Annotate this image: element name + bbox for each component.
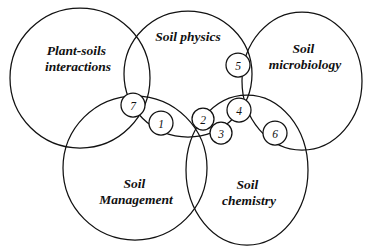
- region-marker-4[interactable]: 4: [227, 98, 251, 122]
- set-label-soil-microbiology: Soil microbiology: [269, 41, 343, 72]
- region-marker-7[interactable]: 7: [121, 93, 145, 117]
- set-label-line-1: Soil: [292, 41, 314, 56]
- set-circle-plant-soils-interactions[interactable]: [10, 8, 150, 148]
- region-marker-6[interactable]: 6: [263, 121, 287, 145]
- region-marker-5[interactable]: 5: [226, 53, 250, 77]
- region-marker-1[interactable]: 1: [149, 111, 173, 135]
- venn-diagram-container: Plant-soils interactions Soil physics So…: [0, 0, 372, 252]
- region-number-label: 1: [158, 118, 164, 130]
- region-marker-2[interactable]: 2: [192, 108, 214, 130]
- set-label-soil-management: Soil Management: [98, 176, 174, 207]
- region-number-label: 5: [235, 60, 241, 72]
- set-label-line-2: interactions: [45, 59, 111, 74]
- set-label-line-1: Plant-soils: [47, 43, 106, 58]
- venn-diagram-canvas: Plant-soils interactions Soil physics So…: [0, 0, 372, 252]
- region-markers: 1 2 3 4 5 6 7: [121, 53, 287, 145]
- set-label-soil-physics: Soil physics: [155, 29, 221, 44]
- set-label-line-2: Management: [98, 192, 174, 207]
- region-number-label: 6: [272, 128, 278, 140]
- set-label-line-2: chemistry: [222, 193, 277, 208]
- set-label-plant-soils-interactions: Plant-soils interactions: [45, 43, 111, 74]
- region-marker-3[interactable]: 3: [210, 122, 232, 144]
- set-label-line-1: Soil: [123, 176, 145, 191]
- set-circle-soil-microbiology[interactable]: [242, 12, 362, 150]
- set-label-line-1: Soil physics: [155, 29, 221, 44]
- set-label-line-2: microbiology: [269, 57, 343, 72]
- set-label-line-1: Soil: [236, 177, 258, 192]
- region-number-label: 3: [217, 128, 224, 140]
- region-number-label: 2: [200, 114, 206, 126]
- region-number-label: 4: [236, 105, 242, 117]
- set-label-soil-chemistry: Soil chemistry: [222, 177, 277, 208]
